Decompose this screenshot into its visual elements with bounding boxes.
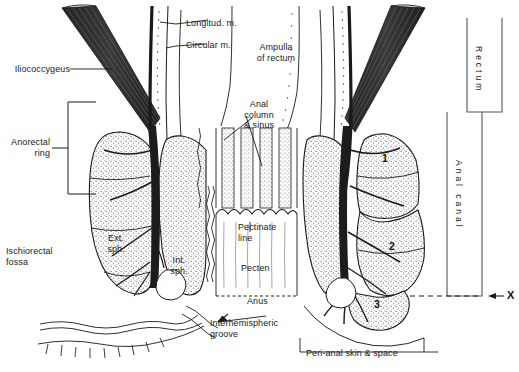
label-anorectal-ring: Anorectal ring: [0, 137, 50, 158]
label-perianal-skin-space: Peri-anal skin & space: [306, 348, 398, 359]
label-anus: Anus: [247, 296, 268, 307]
iliococcygeus-muscle-left: [62, 5, 160, 132]
label-pecten: Pecten: [241, 263, 270, 274]
label-external-sphincter: Ext. sph.: [98, 233, 134, 254]
ampulla-contour-right: [286, 6, 299, 132]
label-longitudinal-muscle: Longitud. m.: [186, 18, 237, 29]
anatomical-diagram: Iliococcygeus Anorectal ring Ischiorecta…: [0, 0, 519, 372]
external-sphincter-left: [89, 132, 152, 294]
sphincter-part-1: 1: [382, 152, 388, 164]
label-iliococcygeus: Iliococcygeus: [2, 64, 70, 75]
label-circular-muscle: Circular m.: [186, 40, 231, 51]
sphincter-part-3: 3: [374, 298, 380, 310]
label-ampulla-of-rectum: Ampulla of rectum: [243, 42, 309, 63]
bracket-label-rectum: Rectum: [474, 26, 496, 103]
label-pectinate-line: Pectinate line: [238, 222, 290, 243]
sphincter-part-2: 2: [389, 240, 395, 252]
label-interhemispheric-groove: Interhemispheric groove: [210, 318, 306, 339]
perianal-skin-left: [38, 315, 204, 358]
mucosa-dots-left: [157, 11, 161, 124]
intersphincteric-wavy-lines: [207, 186, 215, 282]
x-arrow-head: [488, 293, 496, 299]
label-ischiorectal-fossa: Ischiorectal fossa: [6, 246, 68, 267]
anal-columns: [216, 128, 297, 208]
mucosa-dots-right: [341, 11, 345, 124]
label-internal-sphincter: Int. sph.: [162, 255, 196, 276]
rectum-vertical-text: Rectum: [474, 46, 484, 93]
pectinate-line-curve: [216, 210, 297, 215]
iliococcygeus-muscle-right: [345, 5, 425, 132]
anal-canal-vertical-text: Anal canal: [454, 160, 464, 230]
x-level-label: X: [507, 289, 514, 301]
label-anal-column-sinus: Anal column & sinus: [232, 99, 286, 131]
bracket-label-anal-canal: Anal canal: [454, 140, 476, 240]
